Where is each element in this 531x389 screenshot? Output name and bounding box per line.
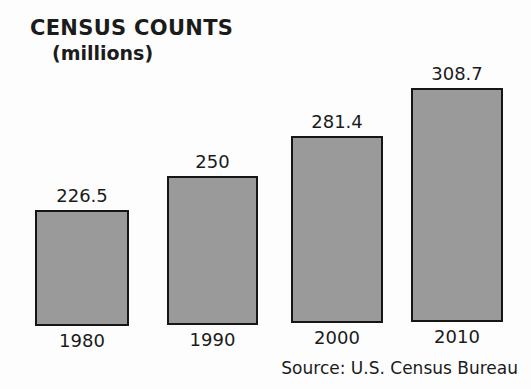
- bar-category-label-2010: 2010: [411, 326, 503, 347]
- bar-1990: [167, 176, 258, 325]
- source-note: Source: U.S. Census Bureau: [281, 358, 518, 378]
- bar-category-label-2000: 2000: [291, 327, 383, 348]
- bar-1980: [35, 210, 129, 326]
- plot-area: 226.519802501990281.42000308.72010: [0, 0, 531, 389]
- bar-2000: [291, 136, 383, 323]
- bar-category-label-1980: 1980: [35, 330, 129, 351]
- bar-2010: [411, 88, 503, 322]
- census-counts-bar-chart: CENSUS COUNTS (millions) 226.51980250199…: [0, 0, 531, 389]
- bar-value-label-1980: 226.5: [35, 185, 129, 206]
- bar-value-label-1990: 250: [167, 151, 258, 172]
- bar-value-label-2000: 281.4: [291, 111, 383, 132]
- bar-category-label-1990: 1990: [167, 329, 258, 350]
- bar-value-label-2010: 308.7: [411, 63, 503, 84]
